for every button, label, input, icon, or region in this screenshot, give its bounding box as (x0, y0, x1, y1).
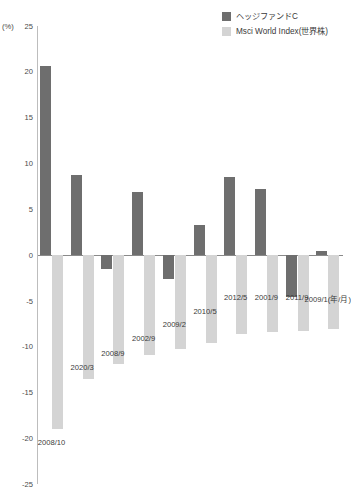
bar-msci-world-index (83, 255, 94, 379)
bar-hedge-fund-c (255, 189, 266, 255)
bar-msci-world-index (206, 255, 217, 343)
x-axis-label: 2001/9 (255, 293, 278, 302)
y-axis-tick-neg15: -15 (22, 388, 33, 397)
bar-group (71, 0, 102, 501)
bar-msci-world-index (328, 255, 339, 329)
plot-area: 2008/102020/32008/92002/92009/22010/5201… (38, 0, 351, 501)
bar-group (194, 0, 225, 501)
bar-hedge-fund-c (163, 255, 174, 279)
y-axis-tick-neg5: -5 (26, 296, 33, 305)
bar-msci-world-index (52, 255, 63, 429)
bar-chart: ヘッジファンドC Msci World Index(世界株) (%) 25201… (0, 0, 351, 501)
x-axis-label: 2010/5 (193, 307, 216, 316)
y-axis-tick-labels: 2520151050-5-10-15-20-25 (0, 0, 36, 501)
bar-group (316, 0, 347, 501)
bar-hedge-fund-c (316, 251, 327, 255)
bar-group (224, 0, 255, 501)
y-axis-tick-neg20: -20 (22, 434, 33, 443)
y-axis-tick-20: 20 (25, 67, 33, 76)
bar-hedge-fund-c (101, 255, 112, 269)
bar-hedge-fund-c (286, 255, 297, 297)
bar-hedge-fund-c (40, 66, 51, 255)
bar-msci-world-index (113, 255, 124, 364)
bar-hedge-fund-c (71, 175, 82, 255)
x-axis-label: 2009/1(年/月) (305, 293, 351, 304)
bar-group (101, 0, 132, 501)
x-axis-label: 2002/9 (132, 334, 155, 343)
x-axis-label: 2009/2 (163, 320, 186, 329)
y-axis-tick-5: 5 (29, 204, 33, 213)
y-axis-tick-25: 25 (25, 21, 33, 30)
bar-hedge-fund-c (132, 192, 143, 254)
x-axis-label: 2008/9 (101, 349, 124, 358)
y-axis-tick-10: 10 (25, 159, 33, 168)
bar-group (286, 0, 317, 501)
bar-group (163, 0, 194, 501)
bar-group (255, 0, 286, 501)
y-axis-tick-neg10: -10 (22, 342, 33, 351)
bar-hedge-fund-c (194, 225, 205, 254)
bar-msci-world-index (175, 255, 186, 349)
bar-group (40, 0, 71, 501)
x-axis-label: 2020/3 (71, 363, 94, 372)
y-axis-tick-neg25: -25 (22, 480, 33, 489)
x-axis-label: 2008/10 (38, 438, 65, 447)
bar-hedge-fund-c (224, 177, 235, 255)
x-axis-label: 2012/5 (224, 293, 247, 302)
bar-group (132, 0, 163, 501)
y-axis-tick-0: 0 (29, 250, 33, 259)
y-axis-tick-15: 15 (25, 113, 33, 122)
